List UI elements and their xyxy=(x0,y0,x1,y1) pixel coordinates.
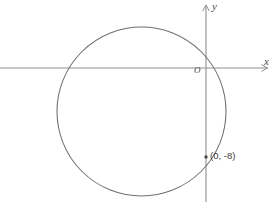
y-axis-label: y xyxy=(212,1,217,12)
origin-label: O xyxy=(194,66,201,75)
point-coordinate-label: (0, -8) xyxy=(210,151,235,161)
circle-shape xyxy=(57,27,226,196)
coordinate-plane-svg xyxy=(0,0,275,202)
x-axis-label: x xyxy=(264,56,269,67)
point-marker xyxy=(204,155,207,158)
geometry-figure: y x O (0, -8) xyxy=(0,0,275,202)
